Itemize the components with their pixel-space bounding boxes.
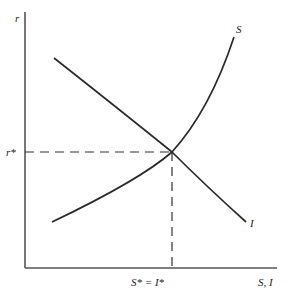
saving-investment-diagram: r r* S I S* = I* S, I	[0, 0, 293, 296]
y-axis-label: r	[15, 12, 20, 24]
curve-i-label: I	[249, 217, 255, 229]
r-star-label: r*	[6, 146, 16, 158]
eq-quantity-label: S* = I*	[131, 276, 165, 288]
x-axis-label: S, I	[258, 276, 274, 288]
curve-s-label: S	[236, 23, 242, 35]
